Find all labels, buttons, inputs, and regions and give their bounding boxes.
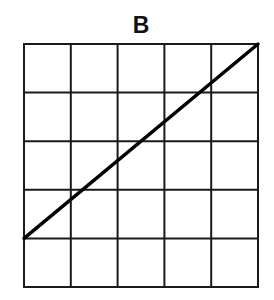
grid-diagram — [0, 0, 274, 300]
grid-lines — [23, 44, 259, 287]
